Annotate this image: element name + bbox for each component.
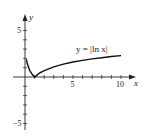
graph: y x 5 10 5 −5 y = |ln x| (0, 0, 144, 136)
y-tick-label-neg5: −5 (13, 119, 22, 128)
x-axis-label: x (133, 78, 138, 88)
x-tick-label-10: 10 (116, 80, 124, 89)
y-axis-arrow-icon (23, 14, 28, 21)
equation-label: y = |ln x| (76, 44, 108, 54)
curve-abs-ln-x (26, 56, 121, 77)
y-tick-label-5: 5 (17, 26, 21, 35)
y-axis-label: y (28, 12, 33, 22)
x-tick-label-5: 5 (71, 80, 75, 89)
